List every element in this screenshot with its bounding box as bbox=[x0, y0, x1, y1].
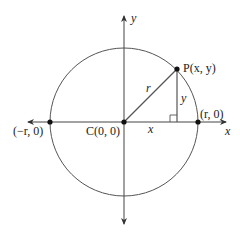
point-left bbox=[47, 119, 52, 124]
x-axis-label: x bbox=[224, 124, 231, 138]
vertical-leg-label: y bbox=[180, 91, 187, 105]
unit-circle-diagram: y x P(x, y) (r, 0) (−r, 0) C(0, 0) r x y bbox=[0, 0, 240, 235]
horizontal-leg-label: x bbox=[147, 122, 154, 136]
point-right-label: (r, 0) bbox=[200, 107, 224, 121]
point-p-label: P(x, y) bbox=[183, 61, 216, 75]
point-p bbox=[174, 66, 179, 71]
right-angle-marker bbox=[170, 115, 177, 122]
point-center-label: C(0, 0) bbox=[86, 124, 120, 138]
y-axis-label: y bbox=[130, 11, 137, 25]
point-left-label: (−r, 0) bbox=[13, 124, 43, 138]
point-center bbox=[121, 119, 126, 124]
radius-label: r bbox=[146, 81, 151, 95]
radius-segment bbox=[124, 69, 177, 122]
